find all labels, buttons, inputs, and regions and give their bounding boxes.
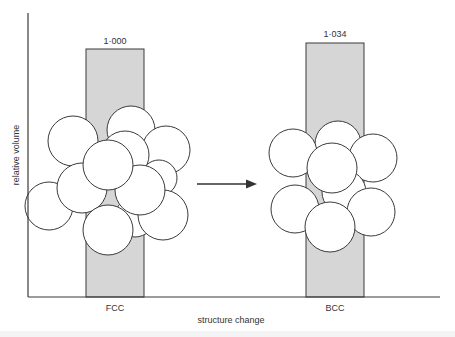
bottom-margin: [0, 331, 455, 337]
fcc-sphere-cluster: [25, 106, 190, 255]
bcc-category-label: BCC: [325, 303, 345, 313]
fcc-sphere: [83, 140, 133, 190]
bcc-sphere: [307, 143, 357, 193]
y-axis-title: relative volume: [11, 125, 21, 186]
fcc-category-label: FCC: [106, 303, 125, 313]
bcc-value-label: 1·034: [323, 29, 346, 39]
arrow-icon: [197, 180, 257, 189]
x-axis-title: structure change: [197, 315, 264, 325]
bcc-sphere-cluster: [269, 121, 397, 252]
fcc-sphere: [83, 205, 133, 255]
fcc-value-label: 1·000: [103, 36, 126, 46]
bcc-sphere: [305, 202, 355, 252]
structure-change-diagram: 1·000 1·034 FCC BCC structure change rel…: [0, 0, 455, 337]
